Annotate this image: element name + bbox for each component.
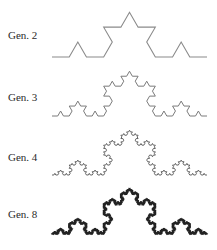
koch-curve-gen-2 [52,12,207,57]
koch-curve-gen-8 [52,189,207,234]
koch-curve-gen-3 [52,71,207,116]
koch-curves [0,0,217,250]
koch-curve-gen-4 [52,130,207,175]
